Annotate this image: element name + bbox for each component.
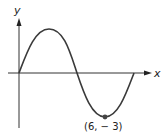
- x-axis-arrow-icon: [144, 71, 152, 76]
- y-axis-label: y: [13, 4, 21, 17]
- sine-graph: y x (6, − 3): [0, 0, 162, 133]
- minimum-point-label: (6, − 3): [84, 121, 123, 132]
- y-axis-arrow-icon: [17, 18, 22, 26]
- minimum-point: [103, 115, 108, 120]
- x-axis-label: x: [153, 67, 161, 80]
